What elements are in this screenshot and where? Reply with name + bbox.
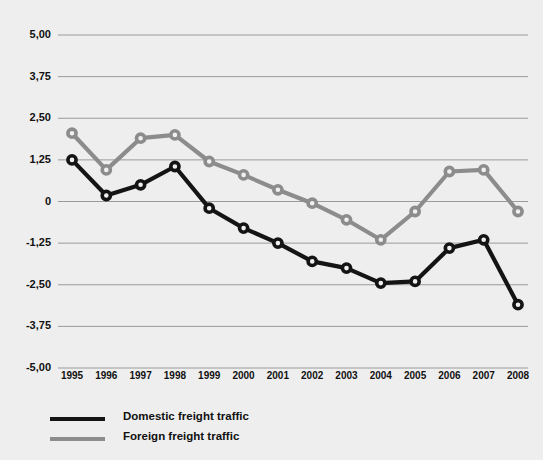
x-tick-label-2005: 2005 [398,370,432,381]
legend-swatch-domestic [50,417,105,421]
data-point [445,244,453,252]
legend-label-domestic: Domestic freight traffic [123,410,249,422]
data-point [171,131,179,139]
y-tick-label: -5,00 [26,361,51,373]
data-point [377,279,385,287]
data-point [205,157,213,165]
line-chart: 5,003,752,501,250-1,25-2,50-3,75-5,00 19… [0,0,543,460]
legend-label-foreign: Foreign freight traffic [123,430,239,442]
chart-plot-area [0,0,543,460]
x-tick-label-2004: 2004 [364,370,398,381]
x-tick-label-2003: 2003 [329,370,363,381]
data-point [308,199,316,207]
data-point [171,162,179,170]
data-point [514,301,522,309]
data-point [205,204,213,212]
y-tick-label: 1,25 [30,153,51,165]
data-point [68,129,76,137]
data-point [514,207,522,215]
data-point [377,236,385,244]
x-tick-label-2006: 2006 [432,370,466,381]
data-point [445,167,453,175]
y-tick-label: 0 [45,195,51,207]
data-point [240,224,248,232]
legend-swatch-foreign [50,437,105,441]
x-tick-label-2000: 2000 [227,370,261,381]
data-point [102,166,110,174]
x-tick-label-1999: 1999 [192,370,226,381]
data-point [240,171,248,179]
x-tick-label-2002: 2002 [295,370,329,381]
x-tick-label-1996: 1996 [89,370,123,381]
data-point [308,257,316,265]
data-point [137,181,145,189]
data-point [102,191,110,199]
y-tick-label: 3,75 [30,70,51,82]
y-tick-label: 2,50 [30,111,51,123]
data-point [480,236,488,244]
x-tick-label-2001: 2001 [261,370,295,381]
data-point [274,186,282,194]
data-point [342,216,350,224]
y-tick-label: -2,50 [26,278,51,290]
data-point [480,166,488,174]
x-tick-label-1998: 1998 [158,370,192,381]
y-tick-label: 5,00 [30,28,51,40]
data-point [68,156,76,164]
y-tick-label: -1,25 [26,236,51,248]
x-tick-label-1997: 1997 [124,370,158,381]
data-point [274,239,282,247]
data-point [137,134,145,142]
y-tick-label: -3,75 [26,319,51,331]
x-tick-label-2008: 2008 [501,370,535,381]
data-point [342,264,350,272]
data-point [411,207,419,215]
data-point [411,277,419,285]
x-tick-label-1995: 1995 [55,370,89,381]
x-tick-label-2007: 2007 [467,370,501,381]
